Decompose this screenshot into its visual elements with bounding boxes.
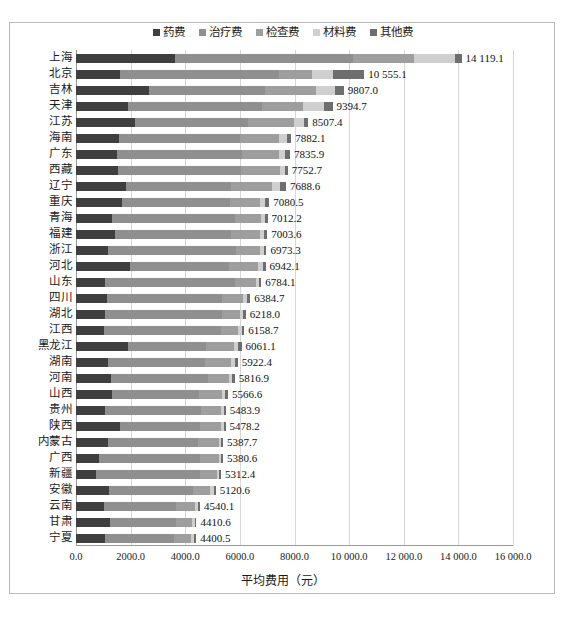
bar-segment-0[interactable] (76, 406, 105, 415)
bar-segment-1[interactable] (128, 102, 262, 111)
bar-segment-1[interactable] (107, 294, 223, 303)
bar-segment-2[interactable] (222, 294, 242, 303)
bar-segment-0[interactable] (76, 342, 128, 351)
bar-segment-1[interactable] (149, 86, 265, 95)
stacked-bar[interactable] (76, 438, 223, 447)
bar-segment-4[interactable] (263, 262, 266, 271)
bar-segment-2[interactable] (262, 102, 304, 111)
bar-segment-2[interactable] (241, 166, 280, 175)
bar-segment-3[interactable] (312, 70, 333, 79)
bar-segment-1[interactable] (104, 326, 221, 335)
stacked-bar[interactable] (76, 342, 242, 351)
stacked-bar[interactable] (76, 486, 216, 495)
bar-segment-1[interactable] (120, 422, 200, 431)
bar-segment-1[interactable] (118, 166, 241, 175)
bar-segment-0[interactable] (76, 470, 96, 479)
bar-segment-1[interactable] (130, 262, 229, 271)
bar-segment-4[interactable] (219, 470, 221, 479)
bar-segment-0[interactable] (76, 86, 149, 95)
bar-segment-1[interactable] (105, 406, 201, 415)
bar-segment-2[interactable] (193, 486, 210, 495)
stacked-bar[interactable] (76, 310, 246, 319)
bar-segment-2[interactable] (231, 182, 271, 191)
bar-row[interactable]: 7080.5 (76, 194, 513, 210)
bar-segment-0[interactable] (76, 390, 112, 399)
bar-segment-4[interactable] (280, 182, 286, 191)
bar-row[interactable]: 4410.6 (76, 514, 513, 530)
bar-segment-2[interactable] (240, 134, 280, 143)
bar-segment-0[interactable] (76, 182, 126, 191)
bar-segment-2[interactable] (235, 214, 261, 223)
bar-segment-0[interactable] (76, 294, 107, 303)
bar-segment-4[interactable] (195, 518, 197, 527)
stacked-bar[interactable] (76, 422, 226, 431)
bar-segment-0[interactable] (76, 230, 115, 239)
bar-segment-4[interactable] (242, 326, 244, 335)
bar-row[interactable]: 6784.1 (76, 274, 513, 290)
stacked-bar[interactable] (76, 534, 196, 543)
bar-segment-2[interactable] (200, 454, 219, 463)
bar-segment-1[interactable] (119, 134, 240, 143)
bar-segment-1[interactable] (108, 358, 205, 367)
bar-row[interactable]: 8507.4 (76, 114, 513, 130)
bar-row[interactable]: 7835.9 (76, 146, 513, 162)
bar-row[interactable]: 6218.0 (76, 306, 513, 322)
bar-segment-3[interactable] (316, 86, 335, 95)
stacked-bar[interactable] (76, 278, 261, 287)
bar-row[interactable]: 5922.4 (76, 354, 513, 370)
stacked-bar[interactable] (76, 54, 462, 63)
stacked-bar[interactable] (76, 294, 250, 303)
bar-segment-4[interactable] (235, 358, 238, 367)
bar-row[interactable]: 7012.2 (76, 210, 513, 226)
bar-segment-2[interactable] (208, 374, 230, 383)
bar-segment-4[interactable] (304, 118, 308, 127)
bar-segment-4[interactable] (455, 54, 462, 63)
bar-segment-2[interactable] (176, 502, 195, 511)
stacked-bar[interactable] (76, 246, 266, 255)
bar-segment-4[interactable] (243, 310, 245, 319)
bar-segment-1[interactable] (104, 502, 176, 511)
bar-segment-4[interactable] (287, 134, 291, 143)
bar-row[interactable]: 5566.6 (76, 386, 513, 402)
bar-segment-2[interactable] (230, 198, 259, 207)
bar-segment-1[interactable] (122, 198, 230, 207)
bar-row[interactable]: 4540.1 (76, 498, 513, 514)
bar-segment-4[interactable] (265, 214, 268, 223)
stacked-bar[interactable] (76, 518, 196, 527)
bar-segment-1[interactable] (105, 310, 222, 319)
bar-segment-4[interactable] (335, 86, 343, 95)
bar-segment-2[interactable] (200, 422, 221, 431)
bar-row[interactable]: 5387.7 (76, 434, 513, 450)
bar-segment-2[interactable] (353, 54, 413, 63)
bar-segment-1[interactable] (105, 278, 235, 287)
legend-item-2[interactable]: 检查费 (256, 27, 299, 39)
stacked-bar[interactable] (76, 358, 238, 367)
bar-row[interactable]: 7688.6 (76, 178, 513, 194)
bar-segment-4[interactable] (259, 278, 261, 287)
bar-segment-1[interactable] (112, 390, 199, 399)
bar-segment-1[interactable] (108, 438, 199, 447)
bar-segment-1[interactable] (128, 342, 206, 351)
bar-row[interactable]: 9394.7 (76, 98, 513, 114)
bar-segment-4[interactable] (285, 150, 290, 159)
bar-segment-0[interactable] (76, 374, 111, 383)
stacked-bar[interactable] (76, 454, 223, 463)
bar-segment-0[interactable] (76, 70, 120, 79)
bar-segment-0[interactable] (76, 134, 119, 143)
bar-segment-2[interactable] (235, 278, 256, 287)
stacked-bar[interactable] (76, 198, 269, 207)
stacked-bar[interactable] (76, 182, 286, 191)
bar-segment-0[interactable] (76, 502, 104, 511)
bar-segment-0[interactable] (76, 118, 135, 127)
bar-row[interactable]: 10 555.1 (76, 66, 513, 82)
stacked-bar[interactable] (76, 230, 267, 239)
bar-segment-3[interactable] (279, 134, 287, 143)
bar-row[interactable]: 14 119.1 (76, 50, 513, 66)
bar-segment-1[interactable] (120, 70, 279, 79)
bar-row[interactable]: 6158.7 (76, 322, 513, 338)
bar-segment-2[interactable] (200, 470, 217, 479)
bar-segment-1[interactable] (112, 214, 236, 223)
bar-segment-0[interactable] (76, 534, 105, 543)
bar-segment-0[interactable] (76, 486, 109, 495)
bar-segment-4[interactable] (333, 70, 365, 79)
